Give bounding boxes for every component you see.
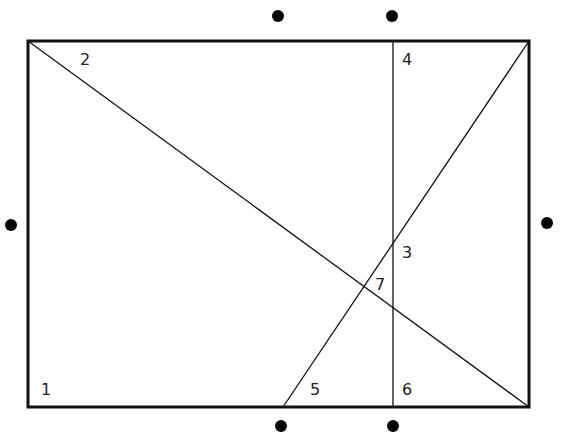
region-label-3: 3	[402, 243, 412, 262]
diagonal-bottom-to-top-right	[283, 41, 529, 407]
region-label-5: 5	[310, 380, 320, 399]
region-label-4: 4	[402, 50, 412, 69]
region-label-2: 2	[80, 50, 90, 69]
marker-dots	[5, 10, 553, 432]
dot-top-right	[386, 10, 398, 22]
geometry-diagram: 1234567	[0, 0, 563, 444]
region-label-1: 1	[41, 380, 51, 399]
region-label-6: 6	[402, 380, 412, 399]
interior-lines	[28, 41, 529, 407]
dot-bottom-left	[275, 420, 287, 432]
dot-top-left	[272, 10, 284, 22]
dot-right	[541, 217, 553, 229]
diagonal-top-left-to-bottom-right	[28, 41, 529, 407]
region-labels: 1234567	[41, 50, 412, 399]
dot-left	[5, 219, 17, 231]
region-label-7: 7	[375, 275, 385, 294]
dot-bottom-right	[387, 420, 399, 432]
